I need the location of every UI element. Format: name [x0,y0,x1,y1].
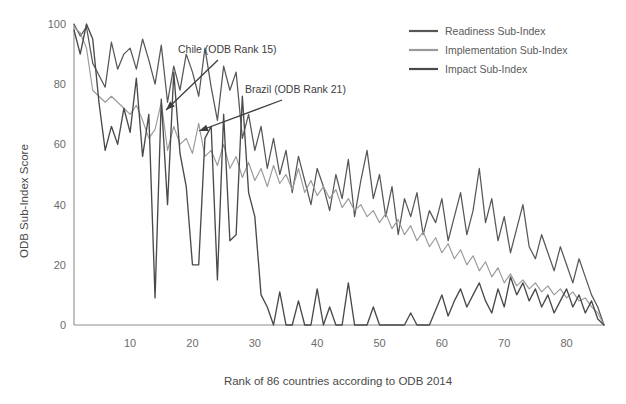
x-tick-label-70: 70 [498,337,510,349]
y-tick-label-0: 0 [60,319,66,331]
annotation-arrowhead-brazil [199,125,209,131]
x-axis-tick-labels: 1020304050607080 [124,337,573,349]
annotations-group: Chile (ODB Rank 15)Brazil (ODB Rank 21) [166,43,346,131]
y-axis-tick-labels: 020406080100 [48,18,66,331]
y-tick-label-40: 40 [54,199,66,211]
x-tick-label-30: 30 [249,337,261,349]
x-tick-label-50: 50 [373,337,385,349]
chart-container: 020406080100 ODB Sub-Index Score 1020304… [0,0,626,404]
odb-subindex-line-chart: 020406080100 ODB Sub-Index Score 1020304… [0,0,626,404]
legend-label-1: Implementation Sub-Index [445,44,568,56]
y-tick-label-80: 80 [54,78,66,90]
x-tick-label-10: 10 [124,337,136,349]
y-tick-label-20: 20 [54,259,66,271]
y-axis-title: ODB Sub-Index Score [18,144,30,258]
chart-legend: Readiness Sub-IndexImplementation Sub-In… [409,25,568,75]
x-tick-label-60: 60 [436,337,448,349]
y-tick-label-100: 100 [48,18,66,30]
legend-label-2: Impact Sub-Index [445,63,528,75]
y-tick-label-60: 60 [54,138,66,150]
annotation-label-brazil: Brazil (ODB Rank 21) [245,83,346,95]
annotation-label-chile: Chile (ODB Rank 15) [178,43,277,55]
y-axis-group: 020406080100 ODB Sub-Index Score [18,18,74,331]
x-tick-label-80: 80 [560,337,572,349]
x-axis-title: Rank of 86 countries according to ODB 20… [224,375,453,387]
x-tick-label-20: 20 [186,337,198,349]
legend-label-0: Readiness Sub-Index [445,25,546,37]
x-tick-label-40: 40 [311,337,323,349]
x-axis-group: 1020304050607080 Rank of 86 countries ac… [74,325,604,387]
